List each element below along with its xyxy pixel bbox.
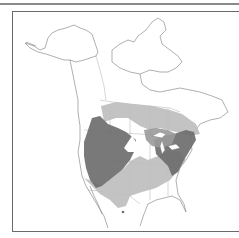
range-map xyxy=(0,0,239,238)
range-dot xyxy=(122,211,125,214)
